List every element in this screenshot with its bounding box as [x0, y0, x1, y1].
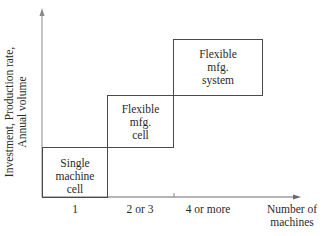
x-tick-label: 4 or more	[180, 203, 236, 215]
x-tick-label: 1	[60, 203, 90, 215]
box-label: Flexible mfg. cell	[122, 103, 160, 142]
box-flexible-mfg-system: Flexible mfg. system	[173, 39, 263, 96]
x-tick-label: 2 or 3	[118, 203, 162, 215]
y-axis-arrow-icon	[40, 8, 45, 16]
box-flexible-mfg-cell: Flexible mfg. cell	[107, 95, 174, 148]
y-axis-title: Investment, Production rate, Annual volu…	[3, 37, 31, 187]
box-label: Flexible mfg. system	[199, 48, 237, 87]
x-axis-arrow-icon	[293, 195, 301, 200]
box-label: Single machine cell	[56, 157, 95, 196]
box-single-machine-cell: Single machine cell	[42, 147, 108, 198]
x-axis-title: Number of machines	[262, 203, 322, 229]
